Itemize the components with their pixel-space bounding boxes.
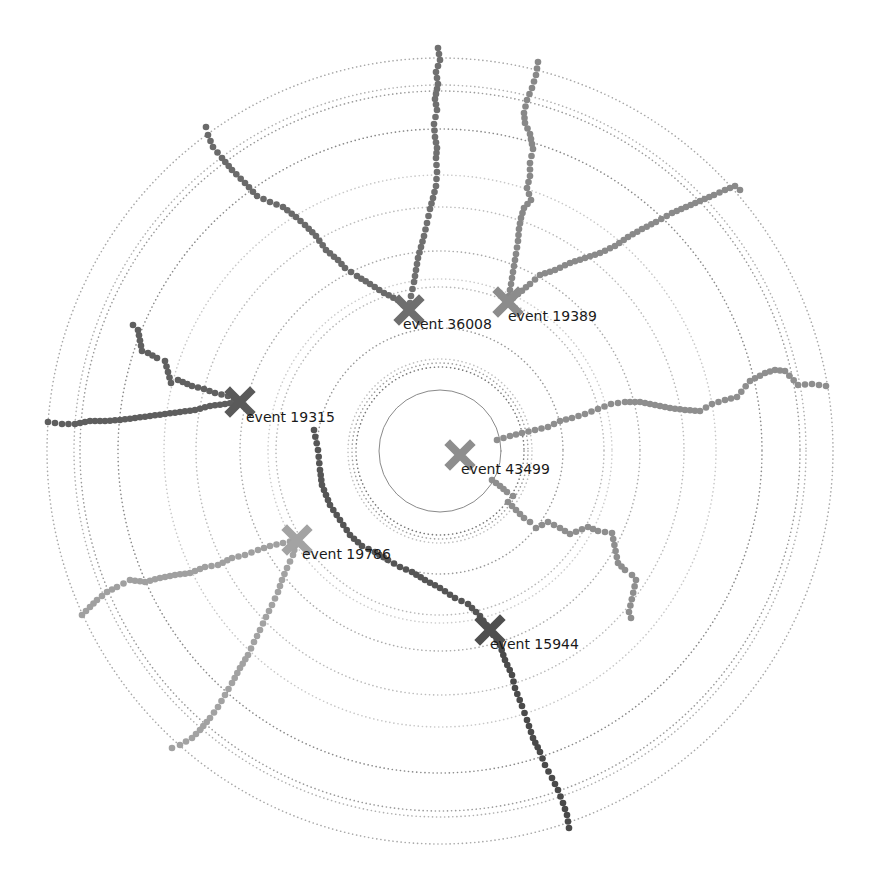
track-hit bbox=[545, 768, 552, 775]
track-hit bbox=[422, 226, 429, 233]
track-hit bbox=[413, 267, 420, 274]
track-hit bbox=[816, 382, 823, 389]
track-hit bbox=[521, 110, 528, 117]
track-hit bbox=[738, 388, 745, 395]
track-hit bbox=[433, 101, 440, 108]
event-marker-event-19389[interactable]: event 19389 bbox=[498, 292, 597, 324]
track-hit bbox=[527, 173, 534, 180]
track-hit bbox=[433, 176, 440, 183]
track-hit bbox=[242, 552, 249, 559]
ring-13 bbox=[47, 58, 833, 844]
track-hit bbox=[277, 583, 284, 590]
event-marker-event-19315[interactable]: event 19315 bbox=[230, 392, 335, 425]
event-label: event 43499 bbox=[461, 461, 550, 477]
ring-12 bbox=[74, 85, 806, 817]
track-hit bbox=[437, 57, 444, 64]
track-hit bbox=[59, 421, 66, 428]
track-hit bbox=[434, 75, 441, 82]
track-hit bbox=[527, 281, 534, 288]
track-event-19315 bbox=[45, 399, 244, 428]
track-hit bbox=[514, 691, 521, 698]
event-label: event 19315 bbox=[246, 409, 335, 425]
track-hit bbox=[513, 251, 520, 258]
track-hit bbox=[539, 522, 546, 529]
track-hit bbox=[412, 273, 419, 280]
track-hit bbox=[595, 406, 602, 413]
track-hit bbox=[823, 383, 830, 390]
track-hit bbox=[215, 562, 222, 569]
track-hit bbox=[512, 685, 519, 692]
track-hit bbox=[510, 493, 517, 500]
track-hit bbox=[527, 166, 534, 173]
track-hit bbox=[433, 139, 440, 146]
track-hit bbox=[557, 793, 564, 800]
track-hit bbox=[189, 735, 196, 742]
track-hit bbox=[263, 614, 270, 621]
track-event-19389 bbox=[505, 59, 542, 306]
event-label: event 19389 bbox=[508, 308, 597, 324]
track-hit bbox=[511, 263, 518, 270]
track-hit bbox=[458, 598, 465, 605]
track-hit bbox=[615, 400, 622, 407]
track-hit bbox=[436, 51, 443, 58]
track-hit bbox=[290, 552, 297, 559]
track-hit bbox=[742, 383, 749, 390]
track-hit bbox=[255, 547, 262, 554]
event-marker-event-43499[interactable]: event 43499 bbox=[450, 445, 550, 477]
track-hit bbox=[552, 781, 559, 788]
track-hit bbox=[195, 384, 202, 391]
track-event-15944 bbox=[487, 627, 573, 832]
event-marker-event-36008[interactable]: event 36008 bbox=[399, 300, 492, 332]
track-hit bbox=[434, 145, 441, 152]
track-hit bbox=[525, 428, 532, 435]
track-hit bbox=[280, 540, 287, 547]
track-hit bbox=[595, 528, 602, 535]
track-hit bbox=[545, 519, 552, 526]
track-hit bbox=[313, 440, 320, 447]
track-hit bbox=[251, 639, 258, 646]
track-hit bbox=[210, 144, 217, 151]
track-hit bbox=[525, 179, 532, 186]
track-hit bbox=[542, 762, 549, 769]
track-hit bbox=[526, 723, 533, 730]
track-hit bbox=[519, 430, 526, 437]
track-hit bbox=[433, 69, 440, 76]
track-hit bbox=[631, 583, 638, 590]
track-hit bbox=[272, 595, 279, 602]
track-hit bbox=[284, 565, 291, 572]
track-hit bbox=[532, 427, 539, 434]
track-hit bbox=[425, 213, 432, 220]
track-hit bbox=[65, 421, 72, 428]
track-hit bbox=[225, 686, 232, 693]
track-hit bbox=[538, 425, 545, 432]
track-hit bbox=[248, 549, 255, 556]
track-hit bbox=[120, 580, 127, 587]
track-hit bbox=[414, 261, 421, 268]
track-hit bbox=[611, 542, 618, 549]
track-hit bbox=[516, 226, 523, 233]
track-hit bbox=[494, 437, 501, 444]
track-hit bbox=[452, 595, 459, 602]
track-hit bbox=[435, 81, 442, 88]
track-hit bbox=[127, 577, 134, 584]
track-hit bbox=[633, 577, 640, 584]
track-hit bbox=[565, 818, 572, 825]
track-hit bbox=[354, 273, 361, 280]
track-hit bbox=[510, 269, 517, 276]
track-hit bbox=[434, 107, 441, 114]
track-hit bbox=[614, 554, 621, 561]
track-hit bbox=[275, 589, 282, 596]
track-hit bbox=[569, 415, 576, 422]
track-hit bbox=[588, 408, 595, 415]
event-marker-event-19786[interactable]: event 19786 bbox=[287, 530, 391, 562]
track-hit bbox=[630, 590, 637, 597]
track-hit bbox=[316, 460, 323, 467]
track-hit bbox=[526, 191, 533, 198]
track-hit bbox=[162, 358, 169, 365]
track-hit bbox=[45, 419, 52, 426]
track-hit bbox=[539, 755, 546, 762]
event-markers: event 36008event 19389event 19315event 4… bbox=[230, 292, 597, 652]
track-hit bbox=[203, 124, 210, 131]
event-marker-event-15944[interactable]: event 15944 bbox=[480, 620, 579, 652]
event-display-diagram: event 36008event 19389event 19315event 4… bbox=[0, 0, 874, 886]
